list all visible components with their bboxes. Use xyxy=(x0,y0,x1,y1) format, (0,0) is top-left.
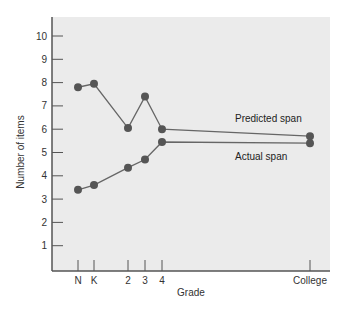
x-tick-label: N xyxy=(74,275,81,286)
x-tick-label: 2 xyxy=(125,275,131,286)
y-tick-label: 9 xyxy=(41,54,47,65)
y-tick-label: 8 xyxy=(41,77,47,88)
data-point xyxy=(306,139,314,147)
data-point xyxy=(141,93,149,101)
data-point xyxy=(124,164,132,172)
y-tick-label: 3 xyxy=(41,194,47,205)
series-label: Actual span xyxy=(235,151,287,162)
plot-area xyxy=(52,17,330,271)
data-point xyxy=(141,155,149,163)
data-point xyxy=(90,181,98,189)
data-point xyxy=(74,83,82,91)
y-tick-label: 1 xyxy=(41,240,47,251)
x-tick-label: K xyxy=(91,275,98,286)
data-point xyxy=(124,124,132,132)
x-axis-title: Grade xyxy=(177,287,205,298)
y-tick-label: 6 xyxy=(41,124,47,135)
y-tick-label: 7 xyxy=(41,100,47,111)
data-point xyxy=(306,132,314,140)
y-axis-title: Number of items xyxy=(15,115,26,188)
y-tick-label: 2 xyxy=(41,217,47,228)
x-tick-label: College xyxy=(293,275,327,286)
data-point xyxy=(90,80,98,88)
x-tick-label: 3 xyxy=(142,275,148,286)
data-point xyxy=(74,186,82,194)
series-label: Predicted span xyxy=(235,113,302,124)
y-tick-label: 5 xyxy=(41,147,47,158)
data-point xyxy=(158,138,166,146)
line-chart: 12345678910 NK234College Predicted spanA… xyxy=(0,0,345,310)
y-tick-label: 10 xyxy=(36,31,48,42)
y-tick-label: 4 xyxy=(41,170,47,181)
data-point xyxy=(158,125,166,133)
x-tick-label: 4 xyxy=(159,275,165,286)
